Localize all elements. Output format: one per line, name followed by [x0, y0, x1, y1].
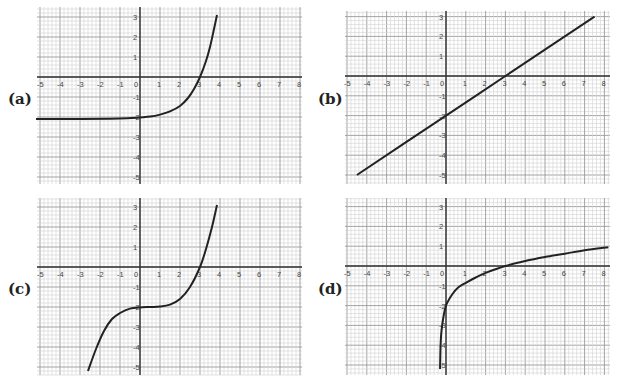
x-tick-label: 1	[463, 269, 467, 278]
x-tick-label: 0	[134, 270, 138, 279]
x-tick-label: 7	[582, 269, 586, 278]
x-tick-label: 5	[542, 269, 546, 278]
y-tick-label: 3	[133, 203, 137, 212]
x-tick-label: 5	[542, 79, 546, 88]
x-tick-label: 0	[134, 80, 138, 89]
x-tick-label: -1	[117, 80, 124, 89]
x-tick-label: 8	[601, 79, 605, 88]
y-tick-label: 2	[133, 223, 137, 232]
y-tick-label: -4	[439, 151, 446, 160]
y-tick-label: 1	[439, 52, 443, 61]
x-tick-label: 2	[177, 80, 181, 89]
x-tick-label: 5	[237, 80, 241, 89]
y-tick-label: -3	[133, 323, 140, 332]
y-tick-label: 1	[133, 243, 137, 252]
x-tick-label: 4	[522, 269, 526, 278]
x-tick-label: 7	[582, 79, 586, 88]
x-tick-label: 4	[522, 79, 526, 88]
x-tick-label: -3	[384, 79, 391, 88]
x-tick-label: 3	[502, 79, 506, 88]
x-tick-label: -4	[364, 79, 371, 88]
x-tick-label: -2	[403, 269, 410, 278]
x-tick-label: -5	[344, 79, 351, 88]
x-tick-label: 1	[157, 270, 161, 279]
graph-d: -5-4-3-2-1012345678321-1-2-3-4-5	[310, 191, 620, 382]
x-tick-label: -2	[97, 80, 104, 89]
x-tick-label: -5	[344, 269, 351, 278]
x-tick-label: 8	[601, 269, 605, 278]
y-tick-label: -4	[133, 153, 140, 162]
x-tick-label: -1	[117, 270, 124, 279]
x-tick-label: -1	[423, 269, 430, 278]
y-tick-label: -3	[439, 131, 446, 140]
x-tick-label: -5	[37, 80, 44, 89]
graph-panel-b: (b) -5-4-3-2-1012345678321-1-2-3-4-5	[310, 0, 620, 191]
y-tick-label: -4	[133, 343, 140, 352]
y-tick-label: 3	[439, 13, 443, 22]
y-tick-label: 2	[133, 33, 137, 42]
x-tick-label: 0	[440, 269, 444, 278]
y-tick-label: -1	[439, 282, 446, 291]
x-tick-label: -4	[57, 80, 64, 89]
x-tick-label: 7	[277, 270, 281, 279]
x-tick-label: 7	[277, 80, 281, 89]
x-tick-label: 8	[297, 80, 301, 89]
y-tick-label: -5	[133, 363, 140, 372]
graph-a: -5-4-3-2-1012345678321-1-2-3-4-5	[0, 0, 310, 191]
x-tick-label: -5	[37, 270, 44, 279]
y-tick-label: 2	[439, 32, 443, 41]
graph-c: -5-4-3-2-1012345678321-1-2-3-4-5	[0, 191, 310, 382]
x-tick-label: 6	[562, 79, 566, 88]
y-tick-label: -1	[133, 283, 140, 292]
y-tick-label: -3	[133, 133, 140, 142]
x-tick-label: 5	[237, 270, 241, 279]
x-tick-label: 0	[440, 79, 444, 88]
graph-b: -5-4-3-2-1012345678321-1-2-3-4-5	[310, 0, 620, 191]
graph-panel-d: (d) -5-4-3-2-1012345678321-1-2-3-4-5	[310, 191, 620, 382]
x-tick-label: -2	[97, 270, 104, 279]
x-tick-label: 1	[463, 79, 467, 88]
y-tick-label: -1	[439, 92, 446, 101]
x-tick-label: 6	[257, 80, 261, 89]
x-tick-label: -3	[77, 270, 84, 279]
function-curve	[88, 205, 217, 371]
x-tick-label: 6	[257, 270, 261, 279]
x-tick-label: 2	[483, 79, 487, 88]
x-tick-label: 8	[297, 270, 301, 279]
x-tick-label: 6	[562, 269, 566, 278]
x-tick-label: 2	[177, 270, 181, 279]
x-tick-label: 4	[217, 270, 221, 279]
x-tick-label: 3	[502, 269, 506, 278]
x-tick-label: 1	[157, 80, 161, 89]
x-tick-label: -3	[384, 269, 391, 278]
graph-panel-a: (a) -5-4-3-2-1012345678321-1-2-3-4-5	[0, 0, 310, 191]
y-tick-label: -5	[439, 171, 446, 180]
y-tick-label: 1	[133, 53, 137, 62]
y-tick-label: 1	[439, 242, 443, 251]
x-tick-label: -1	[423, 79, 430, 88]
x-tick-label: -2	[403, 79, 410, 88]
x-tick-label: -4	[364, 269, 371, 278]
y-tick-label: -1	[133, 93, 140, 102]
y-tick-label: 2	[439, 222, 443, 231]
graph-panel-c: (c) -5-4-3-2-1012345678321-1-2-3-4-5	[0, 191, 310, 382]
x-tick-label: -4	[57, 270, 64, 279]
function-curve	[36, 15, 217, 119]
x-tick-label: -3	[77, 80, 84, 89]
y-tick-label: -5	[133, 173, 140, 182]
x-tick-label: 4	[217, 80, 221, 89]
y-tick-label: 3	[439, 203, 443, 212]
y-tick-label: 3	[133, 13, 137, 22]
